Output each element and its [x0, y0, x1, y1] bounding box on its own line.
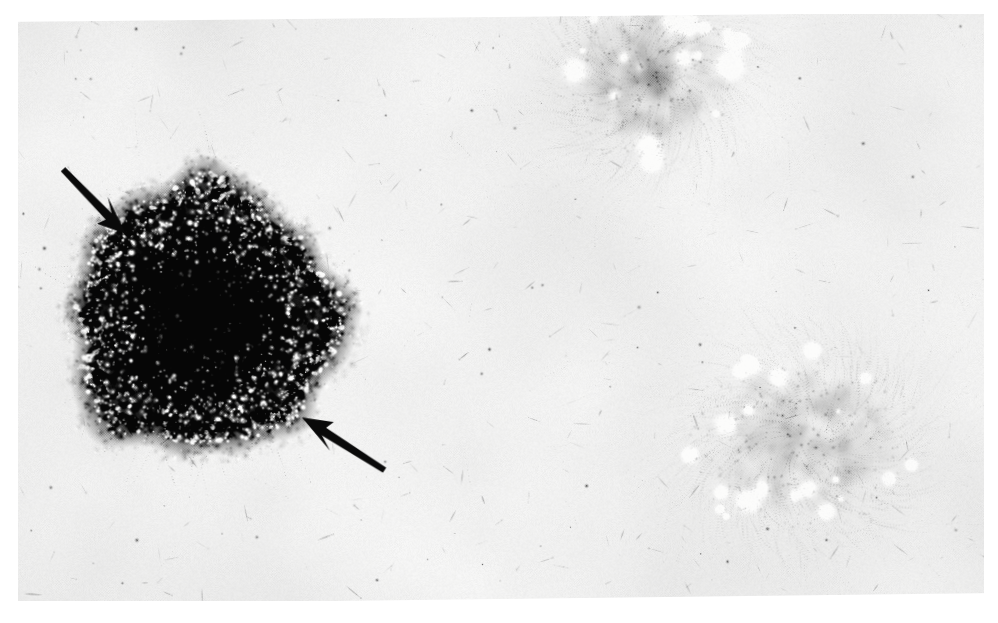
photomicrograph-figure [0, 0, 998, 623]
photo-plate [0, 0, 998, 623]
micrograph-image [0, 0, 998, 623]
